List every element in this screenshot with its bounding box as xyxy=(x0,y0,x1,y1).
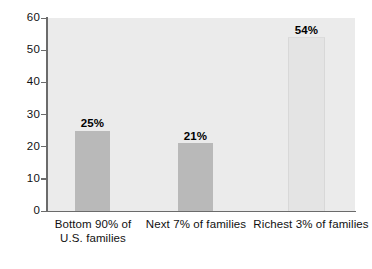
bar-next-7 xyxy=(178,143,213,211)
bar-bottom-90 xyxy=(75,131,110,211)
y-tick-30 xyxy=(41,114,47,115)
y-tick-label-10: 10 xyxy=(0,173,40,185)
y-tick-label-50: 50 xyxy=(0,44,40,56)
bar-richest-3 xyxy=(288,37,325,211)
bar-value-next-7: 21% xyxy=(176,130,216,142)
category-label-bottom-90: Bottom 90% of U.S. families xyxy=(37,218,149,245)
y-tick-label-40: 40 xyxy=(0,76,40,88)
bar-value-richest-3: 54% xyxy=(287,24,327,36)
category-label-next-7: Next 7% of families xyxy=(139,218,253,232)
y-tick-0 xyxy=(41,211,47,212)
y-tick-60 xyxy=(41,18,47,19)
y-tick-label-30: 30 xyxy=(0,109,40,121)
y-tick-label-0: 0 xyxy=(0,205,40,217)
y-tick-label-60: 60 xyxy=(0,12,40,24)
y-tick-40 xyxy=(41,82,47,83)
y-tick-20 xyxy=(41,146,47,147)
bar-value-bottom-90: 25% xyxy=(73,117,113,129)
bar-chart: 60 50 40 30 20 10 0 25% 21% 54% Bottom 9… xyxy=(0,0,372,269)
category-label-richest-3: Richest 3% of families xyxy=(249,218,372,232)
y-tick-50 xyxy=(41,50,47,51)
y-tick-10 xyxy=(41,178,47,179)
y-tick-label-20: 20 xyxy=(0,141,40,153)
